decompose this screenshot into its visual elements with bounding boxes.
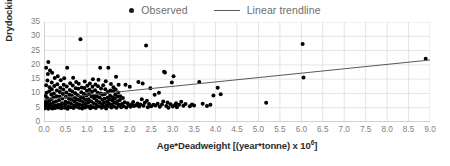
y-axis-tick-labels: 05101520253035 — [24, 22, 40, 122]
legend-entry-observed: Observed — [129, 4, 187, 16]
legend-label-trendline: Linear trendline — [247, 4, 321, 16]
legend-label-observed: Observed — [141, 4, 187, 16]
scatter-chart: Observed Linear trendline Drydocking tim… — [0, 0, 450, 166]
x-axis-title: Age*Deadweight [(year*tonne) x 106] — [44, 140, 430, 151]
y-tick-label: 35 — [31, 18, 40, 26]
x-tick-label: 0.0 — [38, 124, 49, 135]
y-tick-label: 20 — [31, 61, 40, 69]
legend-line-marker-icon — [214, 10, 240, 11]
x-tick-label: 1.5 — [103, 124, 114, 135]
x-tick-label: 7.0 — [339, 124, 350, 135]
legend-dot-marker-icon — [129, 8, 134, 13]
y-tick-label: 25 — [31, 47, 40, 55]
x-tick-label: 8.5 — [403, 124, 414, 135]
x-tick-label: 4.0 — [210, 124, 221, 135]
x-tick-label: 7.5 — [360, 124, 371, 135]
chart-legend: Observed Linear trendline — [0, 0, 450, 20]
x-axis-tick-labels: 0.00.51.01.52.02.53.03.54.04.55.05.56.06… — [44, 124, 430, 136]
y-tick-label: 10 — [31, 89, 40, 97]
x-tick-label: 2.5 — [146, 124, 157, 135]
x-tick-label: 8.0 — [381, 124, 392, 135]
x-tick-label: 5.0 — [253, 124, 264, 135]
legend-entry-trendline: Linear trendline — [214, 4, 321, 16]
x-tick-label: 3.5 — [188, 124, 199, 135]
y-tick-label: 5 — [35, 104, 40, 112]
plot-svg — [44, 22, 430, 122]
x-axis-title-main: Age*Deadweight [(year*tonne) x 10 — [157, 140, 311, 151]
plot-area — [44, 22, 430, 122]
x-tick-label: 6.5 — [317, 124, 328, 135]
x-tick-label: 6.0 — [296, 124, 307, 135]
x-tick-label: 9.0 — [424, 124, 435, 135]
x-tick-label: 5.5 — [274, 124, 285, 135]
x-tick-label: 2.0 — [124, 124, 135, 135]
x-tick-label: 4.5 — [231, 124, 242, 135]
x-axis-title-tail: ] — [314, 140, 317, 151]
data-points — [44, 37, 428, 111]
y-tick-label: 30 — [31, 32, 40, 40]
y-tick-label: 15 — [31, 75, 40, 83]
y-axis-title: Drydocking time (day) — [2, 0, 16, 46]
x-tick-label: 0.5 — [60, 124, 71, 135]
x-tick-label: 1.0 — [81, 124, 92, 135]
x-tick-label: 3.0 — [167, 124, 178, 135]
